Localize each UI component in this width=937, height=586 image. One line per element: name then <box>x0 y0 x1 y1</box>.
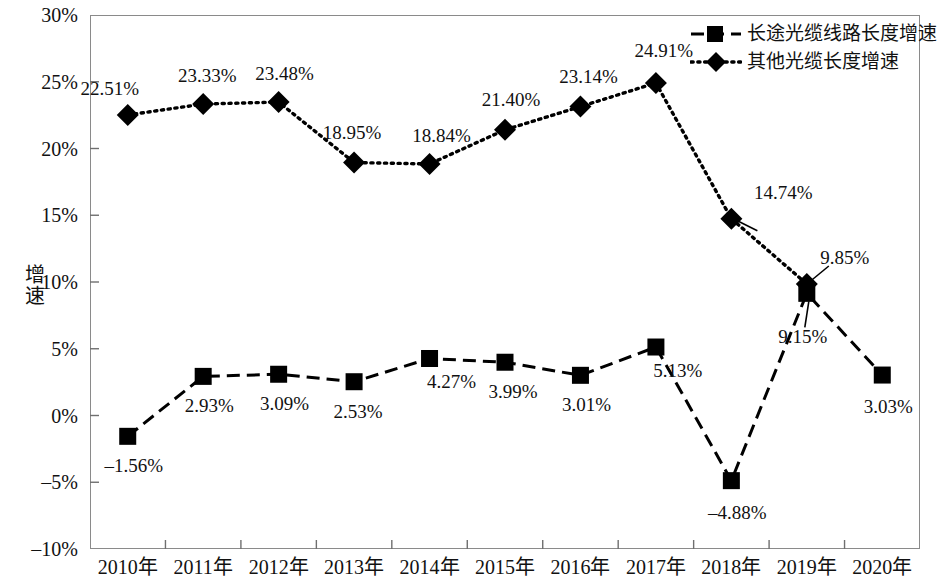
data-point-marker-square <box>572 367 589 384</box>
data-point-label: 23.48% <box>255 64 314 84</box>
data-point-marker-square <box>421 350 438 367</box>
label-leader-line <box>812 266 829 280</box>
data-point-label: –4.88% <box>708 503 767 523</box>
data-point-marker-diamond <box>569 96 591 118</box>
data-point-label: 3.09% <box>260 394 309 414</box>
data-point-label: 9.85% <box>820 248 869 268</box>
data-point-label: 18.95% <box>323 123 382 143</box>
data-point-label: 9.15% <box>778 327 827 347</box>
data-point-marker-diamond <box>645 72 667 94</box>
label-leader-line <box>737 221 757 231</box>
data-point-label: 2.53% <box>334 402 383 422</box>
data-point-marker-diamond <box>192 93 214 115</box>
legend-item[interactable]: 长途光缆线路长度增速 <box>690 20 937 48</box>
data-point-label: 23.14% <box>559 67 618 87</box>
data-point-label: 14.74% <box>754 183 813 203</box>
data-point-label: 3.01% <box>562 395 611 415</box>
data-point-label: 3.99% <box>488 382 537 402</box>
legend-marker-diamond-icon <box>690 50 742 74</box>
data-point-marker-diamond <box>494 119 516 141</box>
data-point-label: 2.93% <box>185 396 234 416</box>
data-point-marker-diamond <box>117 104 139 126</box>
data-point-label: 5.13% <box>653 361 702 381</box>
data-point-label: 23.33% <box>178 66 237 86</box>
series-line-1 <box>128 83 807 284</box>
data-point-label: –1.56% <box>104 456 163 476</box>
chart-legend: 长途光缆线路长度增速其他光缆长度增速 <box>690 20 937 76</box>
label-leader-line <box>805 301 809 327</box>
data-point-label: 22.51% <box>80 79 139 99</box>
data-point-marker-square <box>195 368 212 385</box>
data-point-marker-square <box>723 472 740 489</box>
data-point-marker-square <box>119 428 136 445</box>
data-point-label: 21.40% <box>482 90 541 110</box>
data-point-marker-diamond <box>419 153 441 175</box>
data-point-marker-square <box>497 354 514 371</box>
data-point-marker-square <box>270 366 287 383</box>
data-point-marker-square <box>874 367 891 384</box>
data-point-label: 3.03% <box>864 397 913 417</box>
data-point-marker-square <box>647 339 664 356</box>
legend-label: 其他光缆长度增速 <box>747 49 899 75</box>
data-point-label: 24.91% <box>635 41 694 61</box>
legend-item[interactable]: 其他光缆长度增速 <box>690 48 937 76</box>
legend-marker-square-icon <box>690 22 742 46</box>
data-point-label: 18.84% <box>412 126 471 146</box>
data-point-label: 4.27% <box>427 372 476 392</box>
data-point-marker-square <box>346 373 363 390</box>
legend-label: 长途光缆线路长度增速 <box>747 21 937 47</box>
